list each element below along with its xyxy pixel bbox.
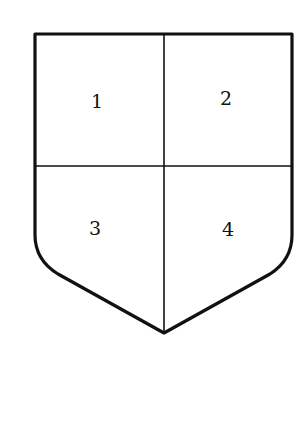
quarter-1-label: 1 <box>91 90 103 112</box>
quarter-2-label: 2 <box>220 87 232 109</box>
shield-diagram: 1 2 3 4 <box>0 0 302 422</box>
quarter-3-label: 3 <box>89 217 101 239</box>
quarter-4-label: 4 <box>222 218 234 240</box>
